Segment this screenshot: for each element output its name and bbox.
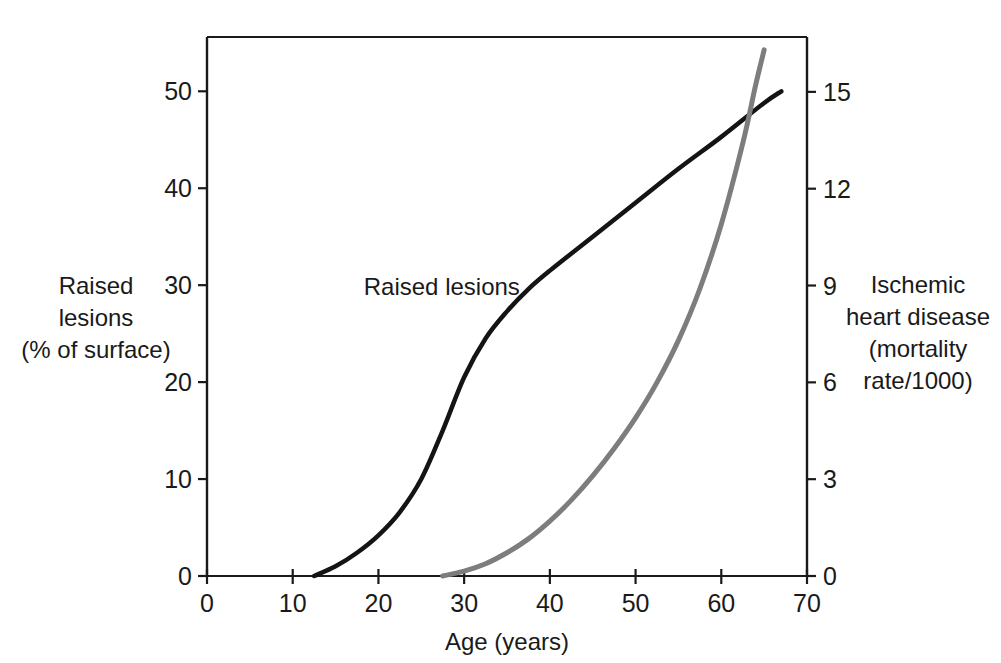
y-right-tick-label: 9 xyxy=(823,272,837,300)
x-tick-label: 40 xyxy=(536,589,564,617)
y-right-tick-label: 3 xyxy=(823,465,837,493)
y-left-tick-label: 40 xyxy=(164,174,192,202)
y-right-tick-label: 12 xyxy=(823,175,851,203)
x-tick-label: 20 xyxy=(365,589,393,617)
line-chart: 01020304050 03691215 010203040506070 Rai… xyxy=(0,0,1001,663)
y-left-tick-label: 10 xyxy=(164,465,192,493)
y-left-tick-label: 20 xyxy=(164,368,192,396)
y-axis-right-title-line: (mortality xyxy=(869,335,968,362)
y-axis-right-title-line: Ischemic xyxy=(871,271,966,298)
x-tick-label: 50 xyxy=(622,589,650,617)
x-tick-label: 0 xyxy=(200,589,214,617)
y-axis-right-title-line: rate/1000) xyxy=(863,367,972,394)
y-right-tick-label: 0 xyxy=(823,562,837,590)
x-tick-label: 70 xyxy=(793,589,821,617)
x-tick-label: 10 xyxy=(279,589,307,617)
x-axis-title: Age (years) xyxy=(445,628,569,655)
y-left-tick-label: 0 xyxy=(178,562,192,590)
y-axis-right-title-line: heart disease xyxy=(846,303,990,330)
y-axis-left-title-line: Raised xyxy=(59,272,134,299)
annotation-label: Raised lesions xyxy=(364,273,520,300)
x-tick-label: 30 xyxy=(450,589,478,617)
y-left-tick-label: 50 xyxy=(164,77,192,105)
y-axis-left-title-line: (% of surface) xyxy=(21,336,170,363)
y-axis-left-title-line: lesions xyxy=(59,304,134,331)
y-right-tick-label: 6 xyxy=(823,368,837,396)
y-left-tick-label: 30 xyxy=(164,271,192,299)
chart-figure: 01020304050 03691215 010203040506070 Rai… xyxy=(0,0,1001,663)
x-tick-label: 60 xyxy=(707,589,735,617)
y-right-tick-label: 15 xyxy=(823,78,851,106)
chart-background xyxy=(0,0,1001,663)
